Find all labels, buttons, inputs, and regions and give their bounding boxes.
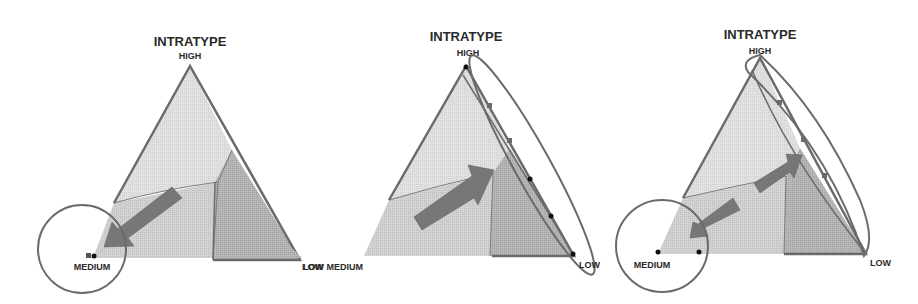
- panel-3-point: [656, 250, 661, 255]
- panel-2-point: [464, 65, 469, 70]
- panel-2: INTRATYPE HIGH LOW MEDIUM LOW: [290, 29, 608, 283]
- panel-1-title: INTRATYPE: [154, 34, 227, 49]
- panel-2-point: [528, 177, 533, 182]
- panel-3-square-point: [822, 173, 827, 178]
- panel-1-low-region: [213, 150, 300, 260]
- panel-1-high-label: HIGH: [179, 51, 202, 61]
- panel-1: INTRATYPE HIGH MEDIUM LOW: [38, 34, 323, 293]
- panel-2-low-medium-label: LOW MEDIUM: [303, 262, 363, 272]
- panel-1-point: [92, 254, 97, 259]
- panel-2-title: INTRATYPE: [430, 29, 503, 44]
- panel-1-medium-label: MEDIUM: [74, 262, 111, 272]
- panel-2-square-point: [507, 138, 512, 143]
- panel-2-left-fragment: [290, 248, 302, 258]
- ternary-diagram-figure: INTRATYPE HIGH MEDIUM LOW INTRATYPE HIGH: [0, 0, 918, 304]
- panel-3-title: INTRATYPE: [724, 27, 797, 42]
- panel-3: INTRATYPE HIGH MEDIUM LOW: [616, 27, 891, 292]
- panel-2-point: [571, 252, 576, 257]
- panel-3-low-label: LOW: [870, 258, 891, 268]
- panel-2-point: [549, 214, 554, 219]
- panel-1-square-point: [86, 253, 91, 258]
- panel-2-square-point: [487, 103, 492, 108]
- panel-3-point: [697, 250, 702, 255]
- panel-2-low-label: LOW: [579, 260, 600, 270]
- panel-3-medium-label: MEDIUM: [634, 260, 671, 270]
